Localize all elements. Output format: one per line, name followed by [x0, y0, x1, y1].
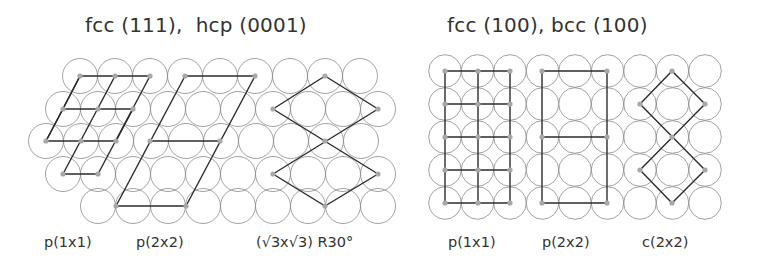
atom — [656, 88, 689, 121]
atom — [326, 157, 361, 192]
adsorbate-dot — [442, 200, 447, 205]
atom — [689, 55, 722, 88]
atom — [273, 59, 308, 94]
adsorbate-dot — [702, 167, 707, 172]
adsorbate-dot — [669, 200, 674, 205]
cell-edge — [46, 109, 63, 141]
adsorbate-dot — [442, 134, 447, 139]
atom — [326, 92, 361, 127]
atom — [559, 154, 592, 187]
adsorbate-dot — [475, 167, 480, 172]
cell-edge — [63, 76, 80, 109]
adsorbate-dot — [43, 138, 48, 143]
atom — [343, 59, 378, 94]
adsorbate-dot — [604, 134, 609, 139]
adsorbate-dot — [702, 101, 707, 106]
hex-p1x1-label: p(1x1) — [44, 234, 92, 250]
adsorbate-dot — [183, 203, 188, 208]
adsorbate-dot — [442, 68, 447, 73]
atom — [221, 189, 256, 224]
atom — [624, 187, 657, 220]
adsorbate-dot — [507, 101, 512, 106]
adsorbate-dot — [113, 203, 118, 208]
cell-edge — [116, 109, 133, 141]
adsorbate-dot — [78, 138, 83, 143]
hex-sqrt3-r30-label: (√3x√3) R30° — [256, 234, 353, 250]
cell-edge — [640, 71, 672, 104]
adsorbate-dot — [539, 68, 544, 73]
cell-edge — [640, 170, 672, 203]
atom — [291, 189, 326, 224]
atom — [81, 189, 116, 224]
adsorbate-dot — [322, 73, 327, 78]
atom — [291, 157, 326, 192]
adsorbate-dot — [217, 138, 222, 143]
sq-p2x2-label: p(2x2) — [542, 234, 590, 250]
adsorbate-dot — [77, 73, 82, 78]
adsorbate-dot — [270, 106, 275, 111]
atom — [624, 121, 657, 154]
adsorbate-dot — [475, 68, 480, 73]
surface-structure-diagram — [0, 0, 759, 273]
adsorbate-dot — [147, 138, 152, 143]
adsorbate-dot — [507, 68, 512, 73]
adsorbate-dot — [95, 106, 100, 111]
sq-c2x2-label: c(2x2) — [642, 234, 688, 250]
adsorbate-dot — [637, 101, 642, 106]
cell-edge — [273, 76, 325, 109]
atom — [326, 189, 361, 224]
adsorbate-dot — [604, 68, 609, 73]
adsorbate-dot — [475, 134, 480, 139]
adsorbate-dot — [637, 167, 642, 172]
adsorbate-dot — [475, 101, 480, 106]
hex-p2x2-label: p(2x2) — [136, 234, 184, 250]
atom — [344, 124, 379, 159]
cell-edge — [325, 76, 378, 109]
atom — [186, 189, 221, 224]
atom — [656, 154, 689, 187]
adsorbate-dot — [130, 106, 135, 111]
adsorbate-dot — [112, 73, 117, 78]
adsorbate-dot — [95, 171, 100, 176]
adsorbate-dot — [60, 171, 65, 176]
adsorbate-dot — [507, 167, 512, 172]
cell-edge — [672, 170, 705, 203]
adsorbate-dot — [375, 171, 380, 176]
cell-edge — [672, 71, 705, 104]
atom — [151, 157, 186, 192]
adsorbate-dot — [475, 200, 480, 205]
atom — [256, 189, 291, 224]
sq-p1x1-label: p(1x1) — [448, 234, 496, 250]
adsorbate-dot — [322, 203, 327, 208]
adsorbate-dot — [507, 200, 512, 205]
adsorbate-dot — [507, 134, 512, 139]
atom — [689, 187, 722, 220]
adsorbate-dot — [182, 73, 187, 78]
adsorbate-dot — [442, 167, 447, 172]
adsorbate-dot — [604, 200, 609, 205]
adsorbate-dot — [322, 138, 327, 143]
atom — [186, 92, 221, 127]
atom — [361, 189, 396, 224]
atom — [239, 124, 274, 159]
adsorbate-dot — [375, 106, 380, 111]
adsorbate-dot — [539, 200, 544, 205]
adsorbate-dot — [270, 171, 275, 176]
adsorbate-dot — [252, 73, 257, 78]
adsorbate-dot — [147, 73, 152, 78]
adsorbate-dot — [669, 68, 674, 73]
atom — [221, 157, 256, 192]
atom — [624, 55, 657, 88]
atom — [689, 121, 722, 154]
atom — [274, 124, 309, 159]
atom — [291, 92, 326, 127]
atom — [559, 88, 592, 121]
adsorbate-dot — [113, 138, 118, 143]
adsorbate-dot — [669, 134, 674, 139]
adsorbate-dot — [442, 101, 447, 106]
adsorbate-dot — [60, 106, 65, 111]
adsorbate-dot — [539, 134, 544, 139]
